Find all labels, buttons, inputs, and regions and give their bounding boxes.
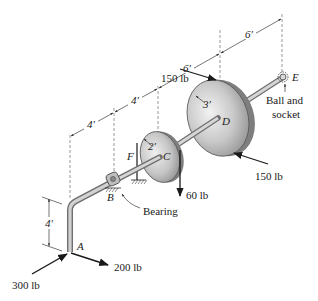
point-label-F: F <box>126 150 134 162</box>
force-200lb <box>71 253 108 265</box>
force-label-60: 60 lb <box>186 189 209 201</box>
dim-label-bc: 4′ <box>131 94 140 106</box>
dim-label-vertical: 4′ <box>45 217 54 229</box>
point-label-A: A <box>76 240 84 252</box>
force-150lb-bottom <box>234 153 268 164</box>
shaft-diagram: 4′ 4′ 6′ 6′ 4′ E Ball and socket 3′ D <box>0 0 318 301</box>
ball-socket-label-1: Ball and <box>266 94 303 106</box>
point-label-D: D <box>221 115 230 127</box>
force-300lb <box>32 254 67 274</box>
force-label-150-top: 150 lb <box>161 72 189 84</box>
force-label-200: 200 lb <box>114 261 142 273</box>
point-label-B: B <box>107 191 114 203</box>
point-label-E: E <box>291 71 299 83</box>
force-label-300: 300 lb <box>12 279 40 291</box>
bearing-label: Bearing <box>143 205 178 217</box>
dim-label-ab: 4′ <box>87 118 96 130</box>
dim-label-de: 6′ <box>245 28 254 40</box>
point-label-C: C <box>163 150 171 162</box>
force-label-150-bottom: 150 lb <box>255 170 283 182</box>
pulley-D <box>177 72 264 165</box>
ball-socket-label-2: socket <box>272 108 300 120</box>
radius-label-C: 2′ <box>148 140 157 152</box>
radius-label-D: 3′ <box>202 98 212 110</box>
